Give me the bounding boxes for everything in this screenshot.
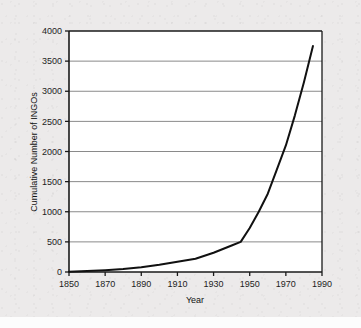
y-axis-tick-label: 500 [47, 237, 62, 247]
x-axis-title: Year [186, 295, 204, 305]
x-axis-tick-label: 1850 [59, 279, 79, 289]
y-axis-tick-label: 0 [57, 267, 62, 277]
figure-container: 05001000150020002500300035004000 1850187… [0, 0, 361, 328]
x-axis-ticks: 18501870189019101930195019701990 [59, 272, 332, 289]
ingo-growth-line-chart: 05001000150020002500300035004000 1850187… [0, 0, 361, 328]
x-axis-tick-label: 1890 [131, 279, 151, 289]
y-axis-tick-label: 4000 [42, 26, 62, 36]
x-axis-tick-label: 1870 [95, 279, 115, 289]
x-axis-tick-label: 1970 [276, 279, 296, 289]
x-axis-tick-label: 1950 [240, 279, 260, 289]
x-axis-tick-label: 1910 [167, 279, 187, 289]
y-axis-tick-label: 2000 [42, 147, 62, 157]
y-axis-title: Cumulative Number of INGOs [29, 92, 39, 212]
y-axis-ticks: 05001000150020002500300035004000 [42, 26, 69, 277]
y-axis-tick-label: 3000 [42, 86, 62, 96]
x-axis-tick-label: 1990 [312, 279, 332, 289]
y-axis-tick-label: 2500 [42, 117, 62, 127]
y-axis-tick-label: 1000 [42, 207, 62, 217]
x-axis-tick-label: 1930 [204, 279, 224, 289]
y-axis-tick-label: 3500 [42, 56, 62, 66]
y-axis-tick-label: 1500 [42, 177, 62, 187]
